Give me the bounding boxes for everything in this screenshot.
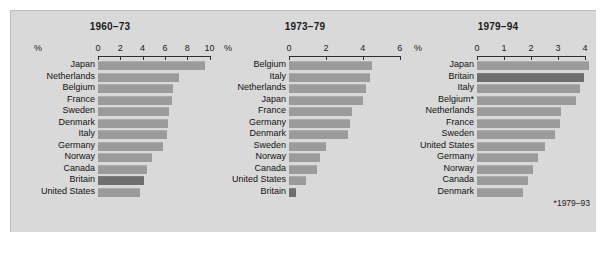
bar-category-label: Italy: [78, 128, 95, 139]
bar-row: United States: [210, 175, 400, 187]
axis-tick-label: 0: [95, 43, 100, 53]
bar: [477, 188, 523, 197]
bar-row: Britain: [210, 187, 400, 199]
bar-category-label: Norway: [443, 163, 474, 174]
bar-category-label: Germany: [437, 151, 474, 162]
bar-category-label: Belgium: [253, 59, 286, 70]
bar: [98, 165, 147, 174]
bar: [98, 142, 163, 151]
bar-row: France: [10, 95, 210, 107]
bar-category-label: United States: [420, 140, 474, 151]
bar-rows: JapanBritainItalyBelgium*NetherlandsFran…: [400, 60, 596, 198]
bar-row: Norway: [210, 152, 400, 164]
panel-title: 1973–79: [210, 21, 400, 32]
bar: [477, 130, 555, 139]
bar-category-label: France: [258, 105, 286, 116]
bar-row: Germany: [400, 152, 596, 164]
bar-category-label: Belgium: [62, 82, 95, 93]
bar: [98, 73, 179, 82]
bar-category-label: Norway: [255, 151, 286, 162]
bar-row: Sweden: [10, 106, 210, 118]
bar-category-label: Italy: [269, 71, 286, 82]
bar-category-label: United States: [232, 174, 286, 185]
bar-row: Canada: [400, 175, 596, 187]
panel-unit-label: %: [414, 43, 422, 53]
axis-tick-label: 0: [286, 43, 291, 53]
bar-category-label: Britain: [69, 174, 95, 185]
bar: [477, 142, 545, 151]
bar-category-label: Sweden: [253, 140, 286, 151]
axis-tick-label: 2: [323, 43, 328, 53]
bar-row: Canada: [10, 164, 210, 176]
bar: [477, 176, 528, 185]
bar: [289, 176, 306, 185]
bar: [289, 107, 352, 116]
bar: [98, 119, 168, 128]
bar-rows: BelgiumItalyNetherlandsJapanFranceGerman…: [210, 60, 400, 198]
bar-category-label: Denmark: [249, 128, 286, 139]
axis-tick-label: 2: [118, 43, 123, 53]
bar-category-label: Japan: [449, 59, 474, 70]
bar: [98, 96, 172, 105]
bar-category-label: Netherlands: [425, 105, 474, 116]
bar-category-label: Canada: [442, 174, 474, 185]
bar: [477, 73, 584, 82]
bar-row: Denmark: [210, 129, 400, 141]
bar-row: United States: [400, 141, 596, 153]
axis-line: [98, 56, 210, 57]
bar: [477, 96, 576, 105]
bar-category-label: Germany: [249, 117, 286, 128]
chart-figure: 1960–73 % 0246810 JapanNetherlandsBelgiu…: [0, 0, 606, 254]
bar-category-label: Britain: [260, 186, 286, 197]
axis-tick-label: 4: [140, 43, 145, 53]
bar-category-label: Sweden: [441, 128, 474, 139]
bar-category-label: Britain: [448, 71, 474, 82]
bar-category-label: Japan: [261, 94, 286, 105]
bar: [289, 153, 320, 162]
bar: [477, 153, 538, 162]
axis-line: [289, 56, 400, 57]
bar: [289, 165, 317, 174]
bar-category-label: United States: [41, 186, 95, 197]
bar-category-label: Germany: [58, 140, 95, 151]
bar-category-label: Netherlands: [237, 82, 286, 93]
bar-row: Germany: [210, 118, 400, 130]
bar-category-label: Italy: [457, 82, 474, 93]
bar-row: France: [400, 118, 596, 130]
bar: [477, 61, 589, 70]
bar-row: Netherlands: [10, 72, 210, 84]
bar-row: Italy: [10, 129, 210, 141]
bar-category-label: Denmark: [58, 117, 95, 128]
bar-row: Netherlands: [210, 83, 400, 95]
axis-tick-label: 1: [501, 43, 506, 53]
bar-category-label: France: [67, 94, 95, 105]
axis-tick-label: 4: [360, 43, 365, 53]
bar-category-label: Sweden: [62, 105, 95, 116]
bar-category-label: Japan: [70, 59, 95, 70]
bar: [98, 176, 144, 185]
bar: [289, 142, 326, 151]
chart-panel-1960-73: 1960–73 % 0246810 JapanNetherlandsBelgiu…: [10, 10, 210, 232]
bar-category-label: Denmark: [437, 186, 474, 197]
bar-row: Belgium: [10, 83, 210, 95]
bar-row: Japan: [10, 60, 210, 72]
bar-row: Denmark: [400, 187, 596, 199]
bar-row: France: [210, 106, 400, 118]
panel-unit-label: %: [224, 43, 232, 53]
bar-row: Germany: [10, 141, 210, 153]
bar: [289, 61, 372, 70]
axis-tick-label: 3: [555, 43, 560, 53]
bar: [289, 84, 366, 93]
bar: [98, 61, 205, 70]
bar-row: Belgium: [210, 60, 400, 72]
bar-category-label: Canada: [254, 163, 286, 174]
bar: [289, 188, 296, 197]
bar: [477, 107, 561, 116]
bar-category-label: Belgium*: [438, 94, 474, 105]
bar-row: Netherlands: [400, 106, 596, 118]
panel-unit-label: %: [34, 43, 42, 53]
chart-panel-1979-94: 1979–94 % 01234 JapanBritainItalyBelgium…: [400, 10, 596, 232]
bar-category-label: France: [446, 117, 474, 128]
bar-row: Sweden: [210, 141, 400, 153]
chart-panel-1973-79: 1973–79 % 0246 BelgiumItalyNetherlandsJa…: [210, 10, 400, 232]
